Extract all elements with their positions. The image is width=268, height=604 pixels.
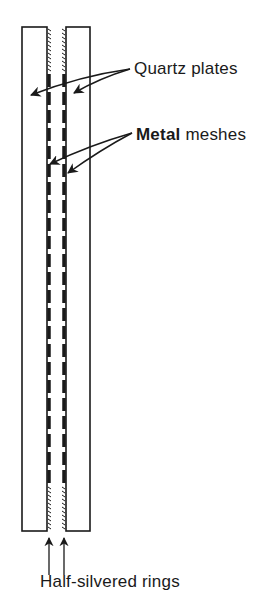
quartz-plate-right (66, 27, 90, 531)
metal-word: Metal (136, 125, 180, 144)
half-silvered-rings-label: Half-silvered rings (40, 572, 180, 592)
ring-callout-arrows (49, 538, 64, 575)
etalon-diagram (0, 0, 268, 604)
quartz-callout-arrows (31, 69, 130, 95)
half-silvered-ring-top (48, 29, 65, 71)
quartz-plates-label: Quartz plates (134, 59, 238, 79)
quartz-plate-left (22, 27, 47, 531)
half-silvered-ring-bottom (48, 487, 65, 529)
meshes-word: meshes (180, 125, 246, 144)
metal-meshes-label: Metal meshes (136, 125, 246, 145)
